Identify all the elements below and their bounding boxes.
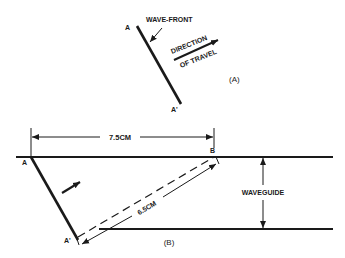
wavefront-line-a	[137, 26, 181, 104]
waveguide-label: WAVEGUIDE	[242, 189, 285, 196]
wavefront-line-b	[31, 157, 78, 240]
diag-dim-line-upper	[163, 164, 216, 197]
wavefront-pointer-arrow	[150, 28, 162, 42]
direction-label-2: OF TRAVEL	[179, 48, 219, 69]
propagation-arrow	[62, 182, 80, 193]
direction-label-1: DIRECTION	[170, 34, 208, 55]
point-a-prime-label: A'	[171, 106, 178, 113]
point-a-label-b: A	[22, 159, 27, 166]
diag-tick-top	[216, 157, 219, 164]
dashed-ray	[78, 157, 214, 237]
wavefront-label: WAVE-FRONT	[146, 16, 193, 23]
diagonal-dimension-label: 6.5CM	[136, 199, 157, 216]
horizontal-dimension-label: 7.5CM	[109, 133, 131, 142]
caption-a: (A)	[229, 75, 240, 84]
point-a-prime-label-b: A'	[64, 237, 71, 244]
figure-a: A A' WAVE-FRONT DIRECTION OF TRAVEL (A)	[125, 16, 240, 113]
figure-b: 7.5CM A A' B 6.5CM WAVEGUIDE (B)	[16, 128, 333, 247]
point-b-label: B	[210, 147, 215, 154]
point-a-label: A	[125, 24, 130, 31]
caption-b: (B)	[164, 238, 175, 247]
waveguide-diagram: A A' WAVE-FRONT DIRECTION OF TRAVEL (A) …	[0, 0, 345, 258]
